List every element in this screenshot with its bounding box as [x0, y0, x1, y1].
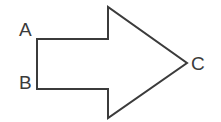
block-arrow-shape	[37, 7, 187, 118]
vertex-label-c: C	[191, 53, 205, 74]
diagram-canvas: A B C	[0, 0, 221, 122]
vertex-label-a: A	[19, 19, 32, 40]
arrow-diagram-svg: A B C	[0, 0, 221, 122]
vertex-label-b: B	[19, 72, 32, 93]
